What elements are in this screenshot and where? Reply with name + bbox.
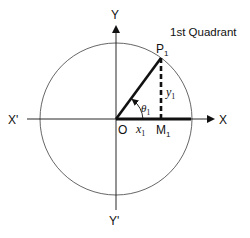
x-positive-label: X: [219, 113, 227, 127]
x1-label: x1: [135, 122, 145, 138]
title-label: 1st Quadrant: [170, 26, 237, 38]
y-axis-label: Y: [111, 8, 119, 22]
unit-circle-diagram: Y 1st Quadrant P1 y1 θ1 X' X O x1 M1 Y': [0, 0, 250, 238]
origin-label: O: [118, 123, 127, 137]
y1-label: y1: [165, 85, 175, 101]
y-negative-label: Y': [109, 214, 119, 228]
p1-label: P1: [156, 42, 169, 58]
m1-label: M1: [156, 123, 171, 139]
radius-op1: [116, 58, 161, 119]
x-negative-label: X': [8, 113, 18, 127]
